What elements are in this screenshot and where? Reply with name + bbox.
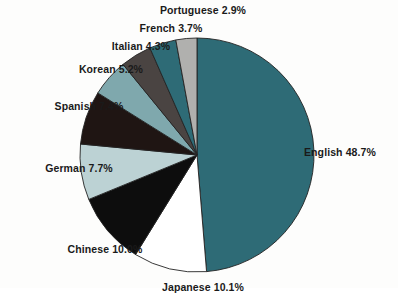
slice-label-german: German 7.7% [4, 162, 154, 174]
slice-label-portuguese: Portuguese 2.9% [128, 4, 278, 16]
slice-label-french: French 3.7% [96, 22, 246, 34]
slice-label-english: English 48.7% [304, 146, 398, 158]
pie-slice-english [197, 38, 314, 272]
slice-label-spanish: Spanish 7.4% [14, 100, 164, 112]
slice-label-italian: Italian 4.3% [66, 40, 216, 52]
slice-label-japanese: Japanese 10.1% [128, 281, 278, 293]
slice-label-chinese: Chinese 10.0% [30, 243, 180, 255]
slice-label-korean: Korean 5.2% [36, 63, 186, 75]
